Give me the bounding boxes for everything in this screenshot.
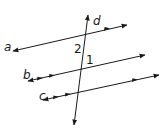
label-line-a: a: [4, 40, 11, 54]
line-a: [13, 25, 127, 51]
parallel-mark-icon: [53, 95, 59, 99]
line-c: [43, 75, 159, 100]
label-line-c: c: [39, 89, 46, 103]
parallel-mark-icon: [65, 93, 71, 97]
parallel-mark-icon: [37, 77, 43, 81]
label-angle-1: 1: [86, 53, 94, 67]
parallel-mark-icon: [49, 74, 55, 78]
label-line-d: d: [93, 14, 101, 28]
label-angle-2: 2: [74, 42, 82, 56]
label-line-b: b: [23, 68, 31, 82]
diagram-canvas: a d b c 2 1: [0, 0, 166, 134]
